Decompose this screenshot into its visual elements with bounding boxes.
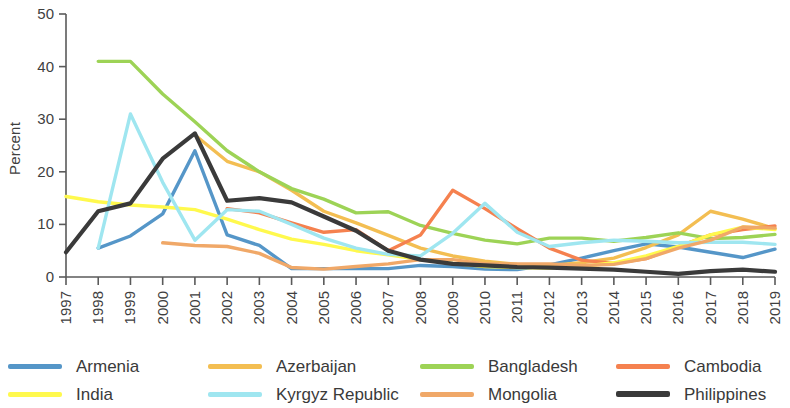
x-tick-label: 2012 bbox=[540, 291, 557, 324]
x-tick-label: 2007 bbox=[379, 291, 396, 324]
x-tick-label: 2010 bbox=[476, 291, 493, 324]
legend-item-armenia[interactable]: Armenia bbox=[0, 352, 208, 380]
x-tick-label: 2009 bbox=[444, 291, 461, 324]
x-tick-label: 2011 bbox=[508, 291, 525, 323]
x-tick-label: 2018 bbox=[734, 291, 751, 324]
legend-item-azerbaijan[interactable]: Azerbaijan bbox=[208, 352, 420, 380]
legend-item-cambodia[interactable]: Cambodia bbox=[616, 352, 786, 380]
x-tick-label: 2015 bbox=[637, 291, 654, 324]
legend-item-philippines[interactable]: Philippines bbox=[616, 380, 786, 408]
x-tick-label: 2001 bbox=[186, 291, 203, 324]
x-tick-label: 2014 bbox=[605, 291, 622, 324]
legend-swatch-icon bbox=[208, 392, 262, 397]
legend-label: Bangladesh bbox=[488, 358, 578, 375]
x-tick-label: 2005 bbox=[315, 291, 332, 324]
x-tick-label: 2008 bbox=[412, 291, 429, 324]
x-tick-label: 1997 bbox=[57, 291, 74, 324]
legend-item-kyrgyz-republic[interactable]: Kyrgyz Republic bbox=[208, 380, 420, 408]
legend-item-mongolia[interactable]: Mongolia bbox=[420, 380, 616, 408]
x-tick-label: 1998 bbox=[89, 291, 106, 324]
legend-label: Azerbaijan bbox=[276, 358, 356, 375]
series-line-bangladesh bbox=[98, 61, 775, 244]
x-tick-label: 2002 bbox=[218, 291, 235, 324]
x-tick-label: 1999 bbox=[121, 291, 138, 324]
y-axis: 01020304050 bbox=[37, 5, 66, 285]
y-tick-label: 40 bbox=[37, 58, 54, 75]
legend-swatch-icon bbox=[8, 364, 62, 369]
series-lines bbox=[66, 61, 775, 274]
x-tick-label: 2003 bbox=[250, 291, 267, 324]
x-tick-label: 2000 bbox=[154, 291, 171, 324]
legend-label: Philippines bbox=[684, 386, 766, 403]
legend-swatch-icon bbox=[616, 391, 670, 397]
legend-item-india[interactable]: India bbox=[0, 380, 208, 408]
legend-swatch-icon bbox=[8, 392, 62, 397]
legend-row: IndiaKyrgyz RepublicMongoliaPhilippines bbox=[0, 380, 790, 408]
legend-row: ArmeniaAzerbaijanBangladeshCambodia bbox=[0, 352, 790, 380]
legend-swatch-icon bbox=[420, 392, 474, 397]
legend-label: Kyrgyz Republic bbox=[276, 386, 399, 403]
legend-label: Cambodia bbox=[684, 358, 762, 375]
y-tick-label: 0 bbox=[46, 268, 54, 285]
x-tick-label: 2006 bbox=[347, 291, 364, 324]
y-axis-title: Percent bbox=[6, 109, 23, 189]
legend-swatch-icon bbox=[616, 364, 670, 369]
x-tick-label: 2019 bbox=[766, 291, 783, 324]
y-tick-label: 20 bbox=[37, 163, 54, 180]
chart-plot-area: 01020304050 1997199819992000200120022003… bbox=[0, 0, 790, 350]
legend-swatch-icon bbox=[208, 364, 262, 369]
line-chart: Percent 01020304050 19971998199920002001… bbox=[0, 0, 790, 408]
legend-label: Armenia bbox=[76, 358, 139, 375]
legend-item-bangladesh[interactable]: Bangladesh bbox=[420, 352, 616, 380]
y-tick-label: 30 bbox=[37, 110, 54, 127]
x-tick-label: 2004 bbox=[283, 291, 300, 324]
x-tick-label: 2013 bbox=[573, 291, 590, 324]
y-tick-label: 50 bbox=[37, 5, 54, 22]
legend-swatch-icon bbox=[420, 364, 474, 369]
y-tick-label: 10 bbox=[37, 215, 54, 232]
chart-legend: ArmeniaAzerbaijanBangladeshCambodiaIndia… bbox=[0, 352, 790, 408]
legend-label: India bbox=[76, 386, 113, 403]
legend-label: Mongolia bbox=[488, 386, 557, 403]
x-tick-label: 2017 bbox=[702, 291, 719, 324]
x-tick-label: 2016 bbox=[669, 291, 686, 324]
x-axis: 1997199819992000200120022003200420052006… bbox=[57, 277, 783, 324]
